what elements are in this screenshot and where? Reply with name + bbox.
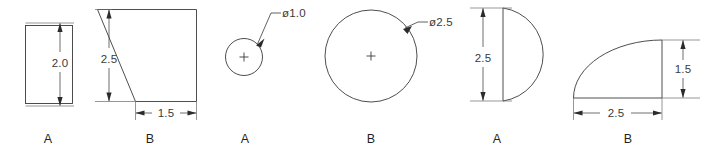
small-circle-leader xyxy=(256,13,281,48)
figure-d-shape: 2.5 xyxy=(470,8,543,101)
quarter-round-width-arrow-right xyxy=(653,110,662,115)
trap-dim-arrow-bottom xyxy=(106,93,111,102)
d-shape-dim-arrow-top xyxy=(480,8,485,17)
quarter-round-width-dim-text: 2.5 xyxy=(608,107,625,119)
large-circle-leader xyxy=(403,22,428,34)
large-circle-diameter-text: ø2.5 xyxy=(429,16,453,28)
figure-label-small-circle: A xyxy=(241,132,250,146)
rect-height-dimension: 2.0 xyxy=(52,23,69,106)
large-circle-leader-slant xyxy=(405,22,418,28)
figure-rectangle: 2.0 xyxy=(26,23,75,106)
figure-large-circle: ø2.5 xyxy=(325,10,453,102)
small-circle-leader-arrow xyxy=(256,39,265,48)
large-circle-center-mark xyxy=(367,52,376,61)
trap-height-dim-text: 2.5 xyxy=(101,53,118,65)
quarter-round-dim-arrow-top xyxy=(680,40,685,49)
quarter-round-arc xyxy=(574,40,663,98)
d-shape-height-dimension: 2.5 xyxy=(475,8,492,101)
trap-dim-arrow-top xyxy=(106,10,111,19)
figure-small-circle: ø1.0 xyxy=(226,7,306,76)
d-shape-arc xyxy=(503,8,543,101)
engineering-drawing-canvas: 2.0 2.5 xyxy=(0,0,718,160)
figure-label-trapezoid: B xyxy=(146,132,155,146)
quarter-round-height-dimension: 1.5 xyxy=(675,40,692,98)
quarter-round-dim-arrow-bottom xyxy=(680,89,685,98)
figure-label-d-shape: A xyxy=(493,132,502,146)
rect-dim-arrow-top xyxy=(57,23,62,32)
technical-drawing-sheet: 2.0 2.5 xyxy=(0,0,718,160)
figure-label-large-circle: B xyxy=(367,132,376,146)
trap-width-dimension: 1.5 xyxy=(136,107,197,119)
trap-width-arrow-left xyxy=(136,110,145,115)
figure-label-rectangle: A xyxy=(44,132,53,146)
small-circle-diameter-text: ø1.0 xyxy=(282,7,306,19)
small-circle-leader-slant xyxy=(258,13,272,44)
figure-trapezoid: 2.5 1.5 xyxy=(95,10,197,121)
small-circle-center-mark xyxy=(240,53,249,62)
rect-height-dim-text: 2.0 xyxy=(52,57,69,69)
quarter-round-height-dim-text: 1.5 xyxy=(675,63,692,75)
d-shape-dim-arrow-bottom xyxy=(480,92,485,101)
quarter-round-width-arrow-left xyxy=(574,110,583,115)
trap-width-arrow-right xyxy=(188,110,197,115)
figure-label-quarter-round: B xyxy=(624,132,633,146)
rect-dim-arrow-bottom xyxy=(57,97,62,106)
d-shape-height-dim-text: 2.5 xyxy=(475,52,492,64)
trap-width-dim-text: 1.5 xyxy=(158,107,175,119)
figure-quarter-round: 1.5 2.5 xyxy=(574,40,701,120)
quarter-round-width-dimension: 2.5 xyxy=(574,107,663,119)
